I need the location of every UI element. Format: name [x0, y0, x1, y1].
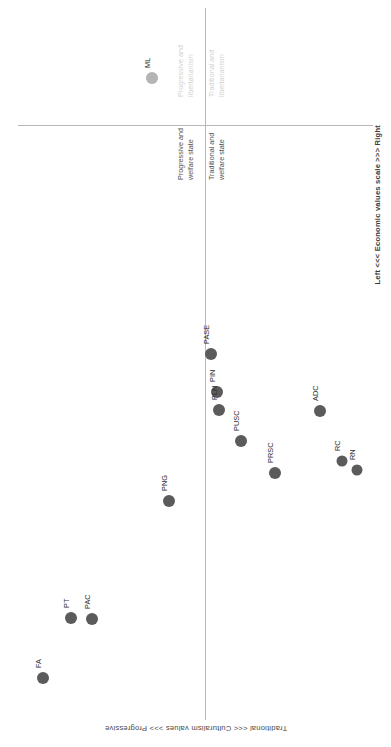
- quadrant-label-line1: Traditional and: [207, 133, 217, 180]
- data-point-pase[interactable]: [205, 348, 217, 360]
- vertical-axis-line: [205, 8, 206, 720]
- data-point-label-pusc: PUSC: [232, 410, 241, 431]
- data-point-rn[interactable]: [352, 465, 363, 476]
- data-point-rc[interactable]: [337, 456, 348, 467]
- data-point-fa[interactable]: [37, 672, 49, 684]
- data-point-label-pt: PT: [62, 599, 71, 608]
- data-point-pt[interactable]: [65, 612, 77, 624]
- data-point-label-pin: PIN: [208, 370, 217, 382]
- x-axis-title: Traditional <<< Culturalism values >>> P…: [104, 724, 286, 733]
- data-point-label-pln: PLN: [210, 386, 219, 400]
- political-compass-chart: Progressive andlibertarianismTraditional…: [0, 0, 391, 747]
- y-axis-title: Left <<< Economic values scale >>> Right: [373, 125, 382, 285]
- q-traditional-welfare-label: Traditional andwelfare state: [207, 133, 226, 180]
- data-point-label-prsc: PRSC: [266, 442, 275, 463]
- horizontal-axis-line: [18, 125, 373, 126]
- quadrant-label-line2: welfare state: [217, 133, 227, 180]
- quadrant-label-line1: Traditional and: [207, 50, 217, 97]
- data-point-label-fa: FA: [34, 659, 43, 668]
- data-point-label-rc: RC: [333, 440, 342, 451]
- q-progressive-libertarianism-label: Progressive andlibertarianism: [176, 45, 195, 97]
- data-point-ml[interactable]: [146, 72, 158, 84]
- quadrant-label-line2: libertarianism: [217, 50, 227, 97]
- data-point-pln[interactable]: [213, 404, 225, 416]
- data-point-label-adc: ADC: [311, 385, 320, 401]
- q-progressive-welfare-label: Progressive andwelfare state: [176, 128, 195, 180]
- quadrant-label-line2: welfare state: [186, 128, 196, 180]
- data-point-label-pac: PAC: [83, 594, 92, 609]
- data-point-pac[interactable]: [86, 613, 98, 625]
- quadrant-label-line1: Progressive and: [176, 45, 186, 97]
- data-point-label-png: PNG: [160, 475, 169, 491]
- data-point-png[interactable]: [163, 495, 175, 507]
- quadrant-label-line2: libertarianism: [186, 45, 196, 97]
- data-point-prsc[interactable]: [269, 467, 281, 479]
- quadrant-label-line1: Progressive and: [176, 128, 186, 180]
- q-traditional-libertarianism-label: Traditional andlibertarianism: [207, 50, 226, 97]
- data-point-label-ml: ML: [143, 58, 152, 68]
- data-point-adc[interactable]: [314, 405, 326, 417]
- data-point-label-pase: PASE: [202, 325, 211, 344]
- data-point-pusc[interactable]: [235, 435, 247, 447]
- data-point-label-rn: RN: [348, 449, 357, 460]
